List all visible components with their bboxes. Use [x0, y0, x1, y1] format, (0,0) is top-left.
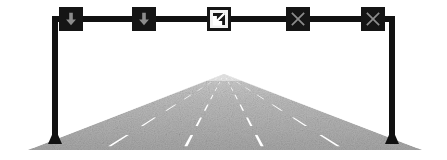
lane-control-scene: Highway lane control signal gantry over …: [0, 0, 447, 160]
lane-signal-3[interactable]: Lane 3Merge left: [207, 7, 231, 31]
gantry-post-left: [52, 16, 58, 144]
x-cross-icon: [289, 10, 307, 28]
down-arrow-icon: [62, 10, 80, 28]
x-cross-icon: [364, 10, 382, 28]
lane-signal-4[interactable]: Lane 4Lane closed: [286, 7, 310, 31]
gantry-base-left: [48, 128, 62, 144]
lane-signal-2[interactable]: Lane 2Lane open: [132, 7, 156, 31]
diagonal-merge-arrow-icon: [210, 10, 228, 28]
lane-signal-5[interactable]: Lane 5Lane closed: [361, 7, 385, 31]
gantry-post-right: [389, 16, 395, 144]
gantry-base-right: [385, 128, 399, 144]
lane-signal-1[interactable]: Lane 1Lane open: [59, 7, 83, 31]
down-arrow-icon: [135, 10, 153, 28]
